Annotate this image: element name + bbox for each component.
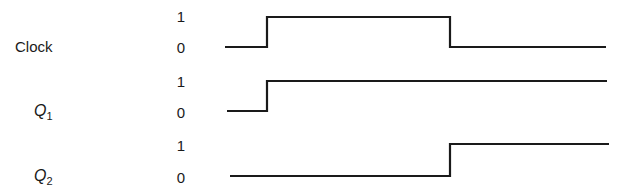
- waveform-q2: [230, 144, 609, 176]
- waveform-clock: [225, 17, 606, 47]
- waveform-q1: [227, 81, 607, 111]
- waveforms: [0, 0, 632, 196]
